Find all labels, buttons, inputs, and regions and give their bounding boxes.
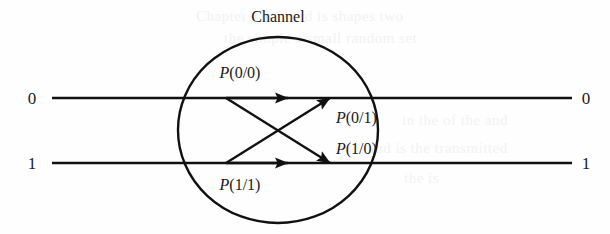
prob-args: (1/1) [229, 176, 260, 194]
transition-label-p-0-given-1: P(0/1) [335, 109, 377, 127]
transition-label-p-0-given-0: P(0/0) [219, 64, 261, 82]
prob-symbol: P [335, 109, 346, 126]
figure-canvas: Chapter The word is shapes two the simpl… [0, 0, 610, 234]
prob-symbol: P [219, 64, 230, 81]
prob-symbol: P [219, 176, 230, 193]
prob-args: (0/1) [346, 109, 377, 127]
transition-label-p-1-given-1: P(1/1) [219, 176, 261, 194]
transition-label-p-1-given-0: P(1/0) [335, 140, 377, 158]
input-label-1: 1 [28, 154, 37, 173]
output-label-0: 0 [582, 89, 591, 108]
prob-args: (0/0) [229, 64, 260, 82]
diagram-title: Channel [251, 8, 305, 25]
output-label-1: 1 [582, 154, 591, 173]
prob-args: (1/0) [346, 140, 377, 158]
channel-diagram: Channel 0 1 0 1 P(0/0) P(0/1) P(1/0) P(1… [0, 0, 610, 234]
prob-symbol: P [335, 140, 346, 157]
input-label-0: 0 [28, 89, 37, 108]
